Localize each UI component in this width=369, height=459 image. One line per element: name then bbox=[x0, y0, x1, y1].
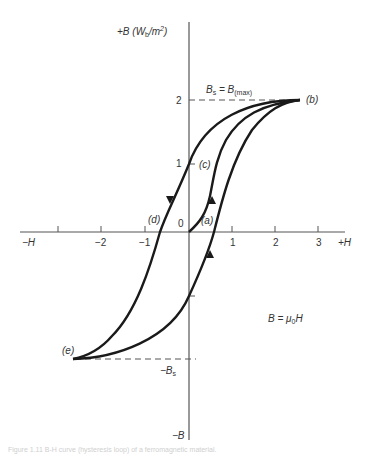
x-tick-label-1: 1 bbox=[230, 238, 236, 248]
figure-caption: Figure 1.11 B-H curve (hysteresis loop) … bbox=[8, 446, 216, 453]
y-tick-label-2: 2 bbox=[176, 96, 182, 106]
x-ticks bbox=[58, 226, 318, 232]
y-axis-bottom-label: −B bbox=[172, 431, 185, 441]
y-axis-label: +B (Wb/m2) bbox=[117, 25, 167, 38]
x-tick-label-2: 2 bbox=[273, 238, 279, 248]
x-axis-right-label: +H bbox=[338, 238, 351, 248]
x-tick-label-neg2: −2 bbox=[95, 238, 106, 248]
saturation-label: Bs = B(max) bbox=[206, 85, 252, 96]
neg-saturation-label: −Bs bbox=[160, 366, 176, 377]
point-b-label: (b) bbox=[306, 95, 318, 105]
descending-branch-curve bbox=[73, 100, 300, 359]
hysteresis-diagram bbox=[0, 0, 369, 459]
point-c-label: (c) bbox=[199, 160, 211, 170]
point-d-label: (d) bbox=[148, 215, 160, 225]
relation-label: B = μ0H bbox=[268, 314, 303, 325]
x-tick-label-neg1: −1 bbox=[139, 238, 150, 248]
origin-label: 0 bbox=[178, 219, 184, 229]
ascending-branch-curve bbox=[73, 100, 300, 359]
point-a-label: (a) bbox=[201, 216, 213, 226]
x-axis-left-label: −H bbox=[22, 238, 35, 248]
point-e-label: (e) bbox=[62, 346, 74, 356]
y-tick-label-1: 1 bbox=[176, 159, 182, 169]
x-tick-label-3: 3 bbox=[316, 238, 322, 248]
